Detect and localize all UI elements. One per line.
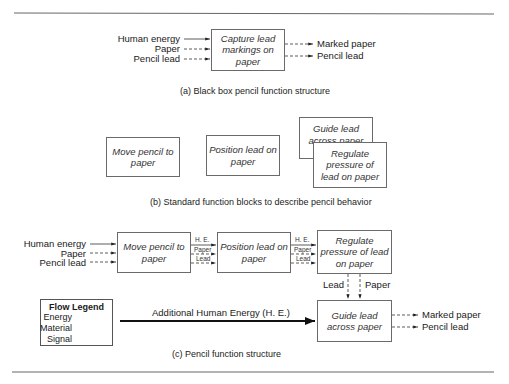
c-input-pencil-lead: Pencil lead	[6, 257, 86, 268]
c-vertical-paper-label: Paper	[365, 279, 390, 290]
b-regulate-pressure-box: Regulate pressure of lead on paper	[313, 142, 387, 188]
b-move-pencil-box: Move pencil to paper	[106, 137, 180, 177]
a-output-pencil-lead: Pencil lead	[317, 50, 363, 61]
legend-material: Material	[40, 323, 72, 333]
c-move-pencil-box: Move pencil to paper	[117, 232, 191, 273]
a-output-marked-paper: Marked paper	[317, 38, 376, 49]
flow-legend: Flow Legend Energy Material Signal	[40, 299, 113, 346]
c-conn1-he: H. E.	[195, 236, 209, 243]
b-caption: (b) Standard function blocks to describe…	[150, 197, 372, 208]
c-output-marked-paper: Marked paper	[422, 309, 481, 320]
c-regulate-pressure-box: Regulate pressure of lead on paper	[317, 230, 392, 274]
legend-energy: Energy	[43, 312, 72, 322]
c-output-pencil-lead: Pencil lead	[422, 321, 468, 332]
c-caption: (c) Pencil function structure	[172, 349, 281, 360]
c-position-lead-box: Position lead on paper	[217, 232, 291, 273]
c-vertical-lead-label: Lead	[323, 279, 344, 290]
a-capture-lead-box: Capture lead markings on paper	[211, 29, 285, 71]
c-conn2-he: H. E.	[295, 236, 309, 243]
c-guide-lead-box: Guide lead across paper	[317, 300, 392, 342]
a-input-pencil-lead: Pencil lead	[100, 53, 180, 64]
c-conn1-lead: Lead	[196, 255, 210, 262]
a-caption: (a) Black box pencil function structure	[180, 86, 330, 97]
b-position-lead-box: Position lead on paper	[206, 135, 280, 176]
c-additional-energy-label: Additional Human Energy (H. E.)	[152, 307, 290, 318]
c-conn2-paper: Paper	[294, 246, 311, 253]
legend-signal: Signal	[47, 334, 72, 344]
legend-title: Flow Legend	[41, 302, 112, 312]
c-conn1-paper: Paper	[194, 246, 211, 253]
c-conn2-lead: Lead	[296, 255, 310, 262]
